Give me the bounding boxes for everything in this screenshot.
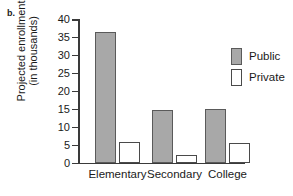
y-tick-mark [72,37,79,39]
plot-area: 0510152025303540 ElementarySecondaryColl… [78,19,245,164]
x-category-label-elementary: Elementary [88,169,146,181]
legend-swatch-private [231,69,242,86]
x-category-label-college: College [208,169,247,181]
bar-elementary-private [119,142,140,162]
y-tick-mark [72,145,79,147]
y-tick-mark [72,55,79,57]
y-tick-mark [72,91,79,93]
y-tick-label: 15 [58,103,70,114]
y-tick-mark [72,127,79,129]
legend-item-private: Private [231,67,285,88]
y-tick-mark [72,109,79,111]
bar-college-public [205,109,226,163]
y-tick-label: 5 [64,139,70,150]
y-tick-label: 0 [64,157,70,168]
y-axis-title: Projected enrollment (in thousands) [12,0,42,111]
y-axis-title-line-1: Projected enrollment [15,1,28,102]
y-tick-label: 25 [58,67,70,78]
y-tick-label: 40 [58,14,70,25]
bar-college-private [229,143,250,163]
x-axis-line [78,163,245,165]
legend-swatch-public [231,48,242,65]
y-tick-mark [72,19,79,21]
chart-legend: PublicPrivate [231,46,285,88]
bar-elementary-public [95,32,116,163]
bar-chart-figure: b. Projected enrollment (in thousands) 0… [0,0,293,196]
y-tick-label: 20 [58,85,70,96]
legend-label-public: Public [249,51,280,63]
y-tick-label: 35 [58,31,70,42]
legend-label-private: Private [249,72,285,84]
y-tick-label: 10 [58,121,70,132]
bar-secondary-public [152,110,173,162]
legend-item-public: Public [231,46,285,67]
y-tick-mark [72,163,79,165]
y-tick-mark [72,73,79,75]
x-category-label-secondary: Secondary [147,169,202,181]
y-tick-label: 30 [58,49,70,60]
bar-secondary-private [176,155,197,162]
y-axis-title-line-2: (in thousands) [27,16,40,86]
